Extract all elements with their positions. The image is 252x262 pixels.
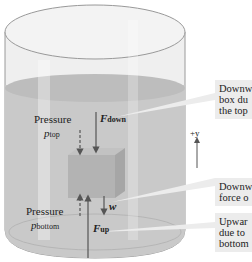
callout-downward-force-top: Downw box du the top bbox=[215, 80, 252, 119]
f-up-label: Fup bbox=[93, 222, 109, 236]
box-front bbox=[68, 155, 115, 198]
water-surface bbox=[5, 74, 185, 102]
weight-label: w bbox=[109, 200, 116, 212]
buoyancy-diagram: Pressure ptop Fdown +y w Pressure pbotto… bbox=[0, 0, 252, 262]
callout-upward-force-bottom: Upwar due to bottom bbox=[215, 213, 252, 252]
f-down-label: Fdown bbox=[100, 112, 126, 126]
y-axis-label: +y bbox=[190, 127, 200, 139]
pressure-bottom-label: Pressure bbox=[26, 205, 63, 217]
p-top-label: ptop bbox=[44, 127, 60, 141]
box-side bbox=[115, 148, 125, 198]
callout-weight: Downw force o bbox=[215, 178, 252, 206]
glass-rim bbox=[5, 5, 185, 59]
p-bottom-label: pbottom bbox=[31, 219, 59, 233]
pressure-top-label: Pressure bbox=[34, 113, 71, 125]
